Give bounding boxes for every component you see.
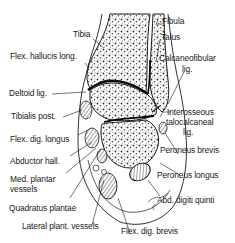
- label-flex-dig-longus: Flex. dig. longus: [10, 134, 69, 144]
- label-peroneus-longus: Peroneus longus: [157, 170, 218, 180]
- label-deltoid-lig: Deltoid lig.: [9, 88, 47, 98]
- label-interosseous-line3: lig.: [183, 127, 193, 137]
- label-lateral-plant-vessels: Lateral plant. vessels: [22, 221, 98, 231]
- label-fibula: Fibula: [162, 16, 184, 26]
- label-peroneus-brevis: Peroneus brevis: [160, 145, 219, 155]
- label-flex-hallucis-long: Flex. hallucis long.: [10, 51, 77, 61]
- label-talus: Talus: [161, 32, 180, 42]
- label-interosseous-line2: talocalcaneal: [166, 117, 214, 127]
- label-quadratus-plantae: Quadratus plantae: [9, 203, 76, 213]
- label-flex-dig-brevis: Flex. dig. brevis: [121, 226, 178, 236]
- label-calcaneofibular-line2: lig.: [182, 64, 192, 74]
- tibia-bone: [87, 14, 150, 92]
- fibula-bone: [150, 14, 169, 112]
- label-med-plantar-line2: vessels: [10, 184, 37, 194]
- label-calcaneofibular-line1: Calcaneofibular: [159, 53, 216, 63]
- calcaneus-bone: [101, 116, 159, 168]
- label-med-plantar-line1: Med. plantar: [10, 174, 55, 184]
- label-abductor-hall: Abductor hall.: [10, 156, 60, 166]
- label-abd-digiti-quinti: Abd. digiti quinti: [157, 195, 214, 205]
- anatomy-diagram: Tibia Flex. hallucis long. Deltoid lig. …: [0, 0, 235, 243]
- label-interosseous-line1: Interosseous: [167, 107, 214, 117]
- label-tibialis-post: Tibialis post.: [11, 111, 56, 121]
- label-tibia: Tibia: [73, 29, 90, 39]
